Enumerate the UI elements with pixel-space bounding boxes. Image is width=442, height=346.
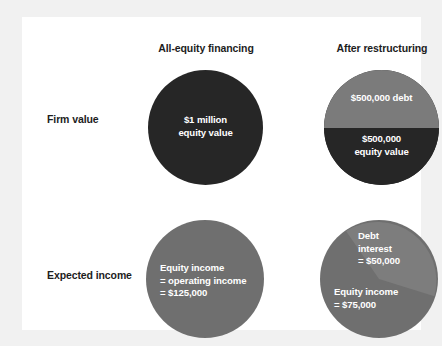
pie-slice-label-equity-income-75000: Equity income = $75,000: [334, 286, 438, 311]
pie-expected-income-all-equity: Equity income = operating income = $125,…: [146, 220, 264, 338]
pie-slice-label-debt-interest-50000: Debt interest = $50,000: [358, 230, 436, 268]
pie-slice-label-equity-income-125000: Equity income = operating income = $125,…: [160, 262, 264, 300]
column-header-all-equity-financing: All-equity financing: [135, 42, 277, 54]
pie-expected-income-after-restructuring: Debt interest = $50,000 Equity income = …: [320, 220, 438, 338]
pie-slice-label-equity-value-500000: $500,000 equity value: [324, 133, 439, 158]
pie-firm-value-after-restructuring: $500,000 debt $500,000 equity value: [324, 70, 439, 185]
pie-slice-label-debt-500000: $500,000 debt: [324, 92, 439, 105]
pie-slice-label-equity-value-1m: $1 million equity value: [148, 114, 263, 139]
row-label-firm-value: Firm value: [47, 113, 99, 125]
figure-root: All-equity financing After restructuring…: [0, 0, 442, 346]
row-label-expected-income: Expected income: [47, 269, 132, 281]
pie-firm-value-all-equity: $1 million equity value: [148, 70, 263, 185]
column-header-after-restructuring: After restructuring: [311, 42, 442, 54]
figure-canvas: All-equity financing After restructuring…: [22, 17, 421, 330]
